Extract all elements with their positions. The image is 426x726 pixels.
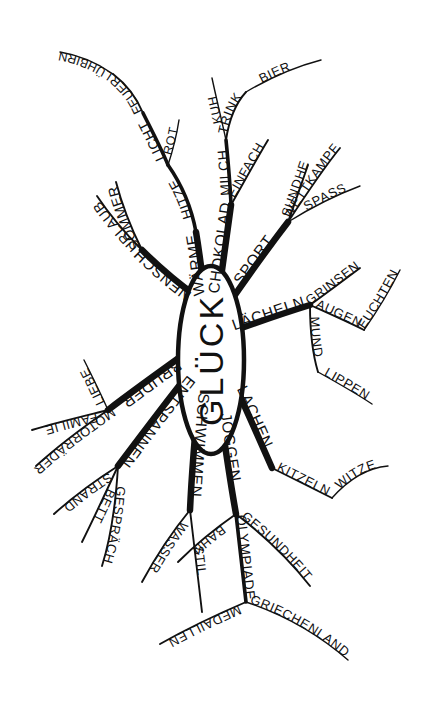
label-kitzeln: KITZELN — [275, 459, 333, 498]
label-griechenland: GRIECHENLAND — [248, 592, 352, 660]
label-lachen: LACHEN — [234, 383, 277, 451]
label-medaillen: MEDAILLEN — [166, 602, 244, 650]
label-kuh: KUH — [205, 94, 225, 125]
label-bier: BIER — [256, 59, 292, 86]
label-sport: SPORT — [230, 232, 277, 288]
label-witze: WITZE — [332, 456, 378, 492]
label-feuer: FEUER — [106, 72, 145, 116]
label-gluehbirne: GLÜHBIRNE — [0, 0, 115, 83]
label-gesundheit: GESUNDHEIT — [0, 0, 312, 219]
label-grinsen: GRINSEN — [303, 258, 363, 308]
label-licht: LICHT — [135, 118, 168, 164]
label-hitze: HITZE — [165, 176, 196, 221]
label-lippen: LIPPEN — [322, 365, 373, 403]
label-mund: MUND — [307, 316, 326, 358]
label-liebe: LIEBE — [77, 366, 108, 408]
mind-map-canvas: GLÜCK WÄRME HITZE LICHT FEUER GLÜHBIRNE … — [0, 0, 426, 726]
label-rot: ROT — [160, 126, 180, 157]
label-wasser: WASSER — [146, 519, 191, 576]
mind-map-svg: GLÜCK WÄRME HITZE LICHT FEUER GLÜHBIRNE … — [0, 0, 426, 726]
